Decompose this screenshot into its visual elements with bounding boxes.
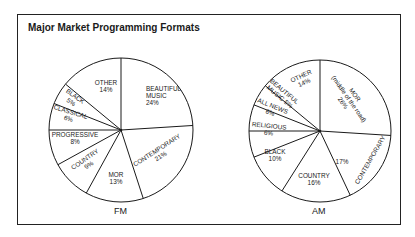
fm-slice-label-mor: MOR13% bbox=[109, 171, 124, 185]
fm-caption: FM bbox=[114, 206, 127, 216]
pie-charts: BEAUTIFULMUSIC24%CONTEMPORARY21%MOR13%CO… bbox=[0, 0, 415, 237]
am-caption: AM bbox=[312, 206, 326, 216]
am-pie-center bbox=[319, 130, 322, 133]
fm-pie-chart: BEAUTIFULMUSIC24%CONTEMPORARY21%MOR13%CO… bbox=[49, 58, 193, 202]
fm-pie-center bbox=[120, 129, 123, 132]
am-pie-chart: MOR(middle of the road)26%CONTEMPORARY17… bbox=[249, 60, 391, 202]
am-slice-label-contemporary: 17% bbox=[336, 158, 349, 165]
